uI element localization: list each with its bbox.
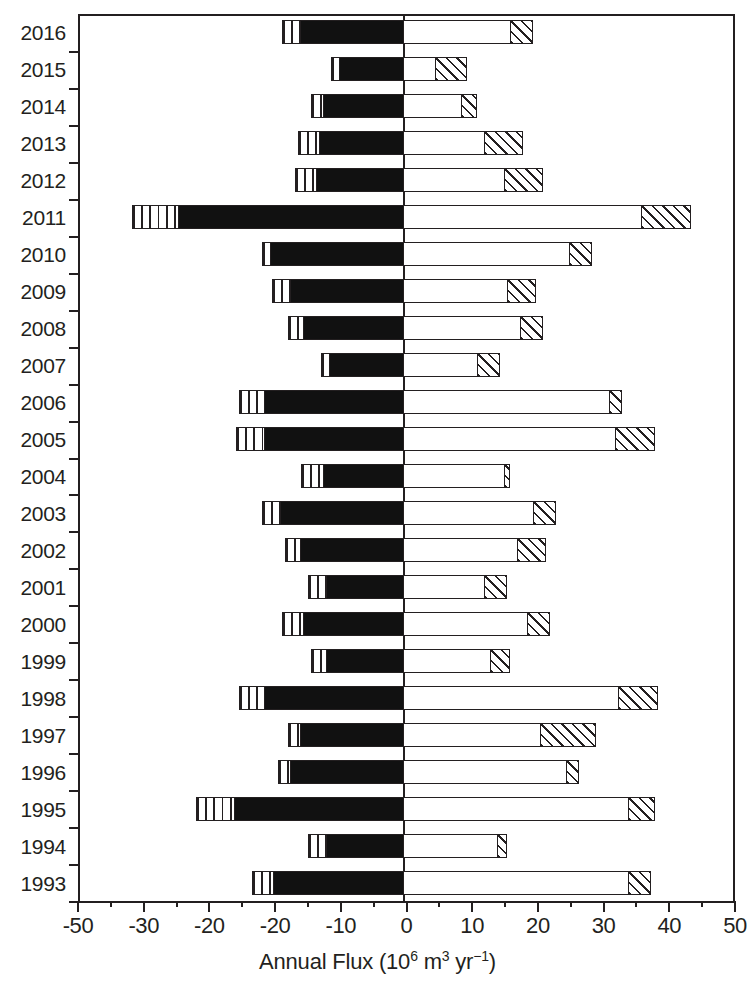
bar-row[interactable] [78,131,735,155]
bar-row[interactable] [78,20,735,44]
bar-row[interactable] [78,649,735,673]
stacked-bar-2000[interactable] [282,612,555,636]
bar-segment-solid-2007 [329,353,405,377]
stacked-bar-1996[interactable] [278,760,584,784]
y-axis-label-2012: 2012 [20,170,66,191]
bar-segment-open-2013 [403,131,485,155]
bar-segment-hatch-1996 [566,760,579,784]
bar-row[interactable] [78,94,735,118]
stacked-bar-2014[interactable] [311,94,482,118]
x-tick-major [208,901,210,912]
bar-segment-open-2012 [403,168,505,192]
stacked-bar-1997[interactable] [288,723,600,747]
stacked-bar-2015[interactable] [331,57,472,81]
x-tick-major [734,901,736,912]
bar-row[interactable] [78,353,735,377]
y-axis-tick [69,568,78,570]
y-axis-tick [69,605,78,607]
y-axis-label-2008: 2008 [20,318,66,339]
bar-row[interactable] [78,612,735,636]
y-axis-label-2003: 2003 [20,503,66,524]
y-axis-tick [69,347,78,349]
stacked-bar-2010[interactable] [262,242,597,266]
y-axis-tick [69,125,78,127]
bar-segment-striped-2003 [262,501,282,525]
stacked-bar-2003[interactable] [262,501,561,525]
x-axis [78,901,735,903]
bar-row[interactable] [78,686,735,710]
stacked-bar-2004[interactable] [301,464,515,488]
bar-row[interactable] [78,575,735,599]
x-axis-label-10: 50 [723,915,747,937]
bar-row[interactable] [78,168,735,192]
bar-row[interactable] [78,464,735,488]
bar-row[interactable] [78,871,735,895]
stacked-bar-1998[interactable] [239,686,663,710]
y-axis-tick [69,236,78,238]
stacked-bar-2001[interactable] [308,575,512,599]
stacked-bar-2016[interactable] [282,20,538,44]
bar-row[interactable] [78,501,735,525]
y-axis-label-2015: 2015 [20,59,66,80]
bar-segment-solid-1996 [290,760,405,784]
stacked-bar-2006[interactable] [239,390,627,414]
plot-frame-top [78,14,735,16]
y-axis-label-1995: 1995 [20,799,66,820]
stacked-bar-1995[interactable] [196,797,659,821]
y-axis-label-2006: 2006 [20,392,66,413]
x-axis-label-2: -20 [194,915,225,937]
stacked-bar-2012[interactable] [295,168,548,192]
bar-row[interactable] [78,57,735,81]
x-tick-minor [241,901,243,907]
x-axis-label-4: -10 [325,915,356,937]
bar-segment-solid-2001 [326,575,405,599]
bar-segment-striped-2012 [295,168,318,192]
stacked-bar-2009[interactable] [272,279,541,303]
bar-segment-solid-2000 [303,612,405,636]
stacked-bar-2005[interactable] [236,427,660,451]
x-tick-major [406,901,408,912]
stacked-bar-1993[interactable] [252,871,656,895]
bar-row[interactable] [78,242,735,266]
y-axis-tick [69,679,78,681]
stacked-bar-2013[interactable] [298,131,528,155]
bar-segment-open-2009 [403,279,508,303]
stacked-bar-2011[interactable] [132,205,696,229]
bar-row[interactable] [78,538,735,562]
x-tick-major [537,901,539,912]
bar-row[interactable] [78,427,735,451]
x-axis-label-1: -30 [128,915,159,937]
x-tick-minor [438,901,440,907]
y-axis-tick [69,494,78,496]
stacked-bar-2007[interactable] [321,353,505,377]
bar-segment-hatch-2016 [510,20,533,44]
bar-row[interactable] [78,279,735,303]
bar-segment-open-2007 [403,353,479,377]
bar-row[interactable] [78,205,735,229]
x-axis-title-main: Annual Flux (10 [259,949,410,974]
bar-segment-hatch-2010 [569,242,592,266]
bar-row[interactable] [78,760,735,784]
bar-row[interactable] [78,316,735,340]
bar-segment-solid-1999 [326,649,405,673]
bar-row[interactable] [78,797,735,821]
y-axis-label-2000: 2000 [20,614,66,635]
bar-segment-striped-1993 [252,871,275,895]
bar-segment-hatch-2004 [504,464,511,488]
bar-segment-hatch-1999 [490,649,510,673]
bar-segment-open-1997 [403,723,541,747]
bar-segment-solid-2014 [323,94,405,118]
bar-row[interactable] [78,834,735,858]
y-axis-label-2016: 2016 [20,22,66,43]
stacked-bar-1999[interactable] [311,649,515,673]
stacked-bar-2008[interactable] [288,316,548,340]
bar-segment-open-2014 [403,94,462,118]
bar-row[interactable] [78,723,735,747]
plot-area: 2016201520142013201220112010200920082007… [78,14,735,901]
stacked-bar-2002[interactable] [285,538,551,562]
bar-segment-striped-1998 [239,686,265,710]
x-tick-minor [373,901,375,907]
stacked-bar-1994[interactable] [308,834,512,858]
bar-segment-solid-2005 [264,427,405,451]
bar-row[interactable] [78,390,735,414]
